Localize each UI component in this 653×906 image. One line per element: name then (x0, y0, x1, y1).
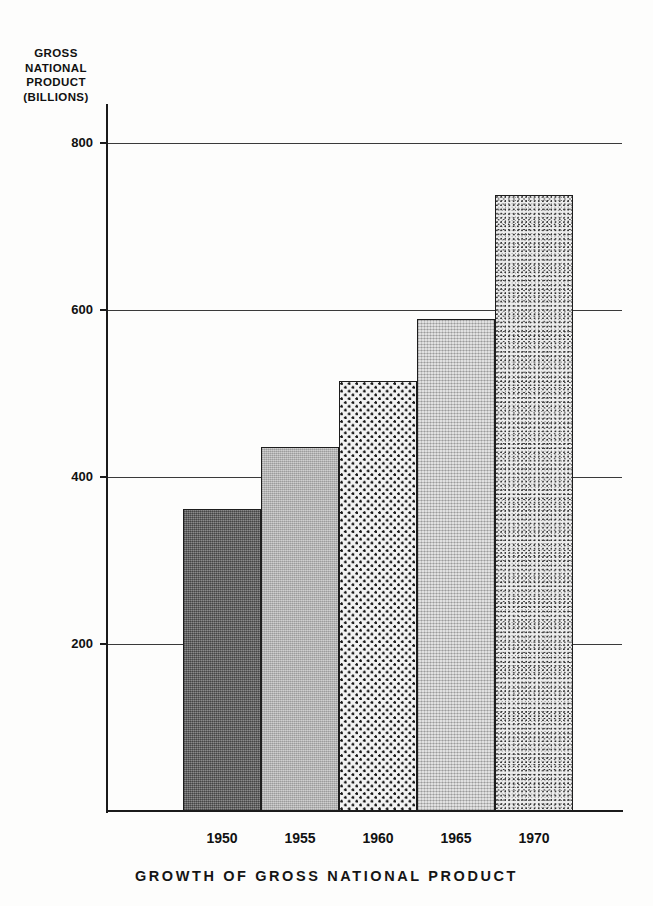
xtick-label-1955: 1955 (255, 830, 345, 846)
xtick-label-1970: 1970 (489, 830, 579, 846)
ytick-label-600: 600 (33, 302, 93, 317)
ytick-label-800: 800 (33, 135, 93, 150)
page-background: GROSS NATIONAL PRODUCT (BILLIONS) 800 60… (0, 0, 653, 906)
xtick-label-1965: 1965 (411, 830, 501, 846)
xtick-label-1960: 1960 (333, 830, 423, 846)
bar-1960[interactable] (339, 381, 417, 811)
y-axis-title: GROSS NATIONAL PRODUCT (BILLIONS) (8, 46, 104, 104)
ytick-label-400: 400 (33, 469, 93, 484)
y-axis-title-line-2: NATIONAL (8, 61, 104, 76)
bar-1970[interactable] (495, 195, 573, 811)
ytick-mark-200 (100, 643, 108, 645)
y-axis-title-line-4: (BILLIONS) (8, 90, 104, 105)
y-axis-title-line-1: GROSS (8, 46, 104, 61)
ytick-mark-400 (100, 476, 108, 478)
y-axis-title-line-3: PRODUCT (8, 75, 104, 90)
gridline-800 (107, 143, 622, 144)
ytick-label-200: 200 (33, 636, 93, 651)
xtick-label-1950: 1950 (177, 830, 267, 846)
chart-caption: GROWTH OF GROSS NATIONAL PRODUCT (0, 868, 653, 884)
bar-1950[interactable] (183, 509, 261, 811)
ytick-mark-800 (100, 142, 108, 144)
bar-chart-figure: GROSS NATIONAL PRODUCT (BILLIONS) 800 60… (0, 0, 653, 906)
bar-1965[interactable] (417, 319, 495, 811)
bar-1955[interactable] (261, 447, 339, 811)
y-axis-line (106, 104, 108, 813)
ytick-mark-600 (100, 309, 108, 311)
